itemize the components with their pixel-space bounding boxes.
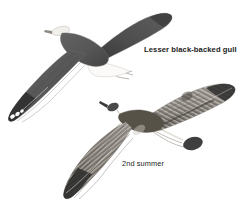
species-label: Lesser black-backed gull (144, 45, 237, 54)
age-class-label: 2nd summer (122, 159, 164, 168)
bird-illustration-plate: Lesser black-backed gull 2nd summer (0, 0, 251, 217)
plate-artwork (0, 0, 251, 217)
